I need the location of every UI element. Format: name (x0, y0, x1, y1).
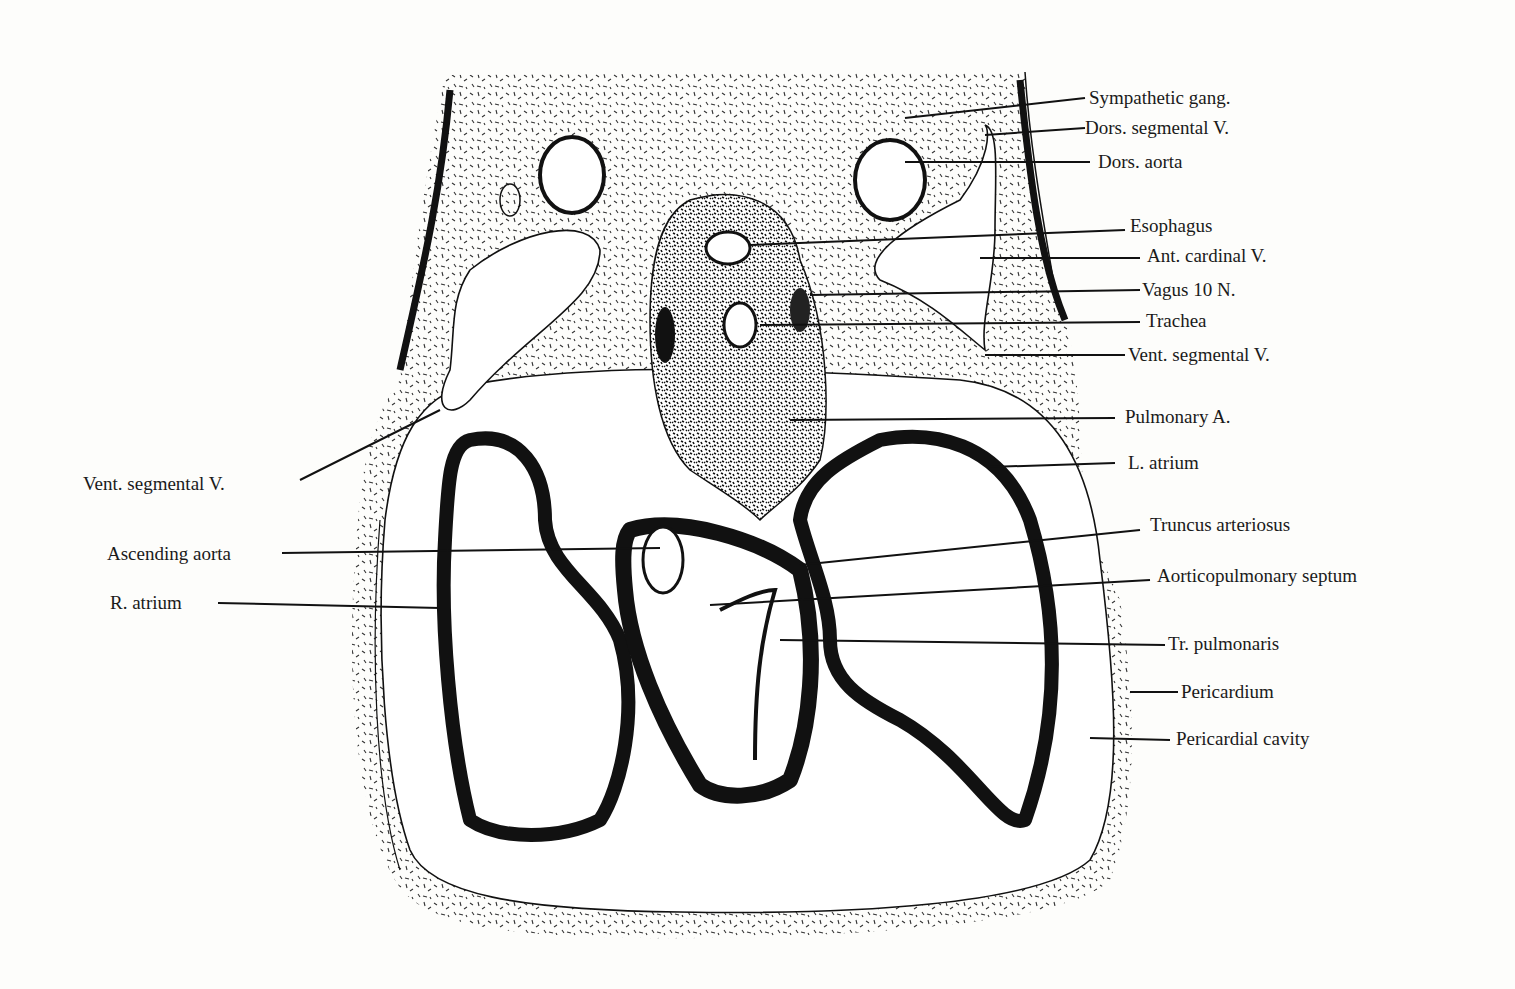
vagus-left (655, 307, 675, 363)
label-sympathetic-gang: Sympathetic gang. (1089, 88, 1230, 107)
label-vagus: Vagus 10 N. (1142, 280, 1235, 299)
label-vent-segmental-v-right: Vent. segmental V. (1128, 345, 1270, 364)
label-esophagus: Esophagus (1130, 216, 1212, 235)
label-pulmonary-a: Pulmonary A. (1125, 407, 1231, 426)
label-dors-aorta: Dors. aorta (1098, 152, 1182, 171)
label-l-atrium: L. atrium (1128, 453, 1199, 472)
label-vent-segmental-v-left: Vent. segmental V. (83, 474, 225, 493)
label-aorticopulmonary-septum: Aorticopulmonary septum (1157, 566, 1357, 585)
trachea-shape (724, 303, 756, 347)
label-truncus-arteriosus: Truncus arteriosus (1150, 515, 1290, 534)
embryo-thorax-section-diagram (0, 0, 1515, 989)
label-dors-segmental-v: Dors. segmental V. (1085, 118, 1229, 137)
dorsal-aorta-left (540, 137, 604, 213)
label-tr-pulmonaris: Tr. pulmonaris (1168, 634, 1279, 653)
label-pericardium: Pericardium (1181, 682, 1274, 701)
dorsal-aorta-right (855, 140, 925, 220)
esophagus-shape (706, 232, 750, 264)
label-r-atrium: R. atrium (110, 593, 182, 612)
label-ant-cardinal-v: Ant. cardinal V. (1147, 246, 1267, 265)
label-ascending-aorta: Ascending aorta (107, 544, 231, 563)
label-trachea: Trachea (1146, 311, 1207, 330)
label-pericardial-cavity: Pericardial cavity (1176, 729, 1309, 748)
